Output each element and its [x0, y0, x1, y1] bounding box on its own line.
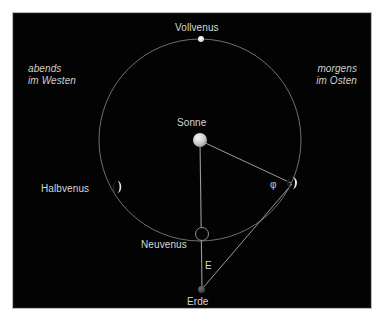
- sun-venus-line: [201, 141, 291, 183]
- morning-east-annotation: morgens im Osten: [316, 63, 357, 87]
- half-venus-label: Halbvenus: [41, 183, 89, 195]
- phase-angle-label: φ: [270, 179, 277, 191]
- orbit-and-rays-layer: [0, 0, 389, 324]
- earth-label: Erde: [187, 296, 209, 308]
- half-venus-marker: [111, 180, 123, 194]
- elongation-angle-label: E: [205, 260, 212, 272]
- morning-line-2: im Osten: [316, 75, 357, 87]
- new-venus-marker: [195, 227, 209, 241]
- evening-west-annotation: abends im Westen: [28, 63, 76, 87]
- morning-line-1: morgens: [316, 63, 357, 75]
- earth-venus-line: [202, 184, 292, 289]
- sun-label: Sonne: [177, 117, 206, 129]
- earth-marker: [198, 286, 205, 293]
- full-venus-label: Vollvenus: [175, 22, 219, 34]
- diagram-stage: abends im Westen morgens im Osten Vollve…: [0, 0, 389, 324]
- new-venus-label: Neuvenus: [141, 239, 187, 251]
- elongation-venus-marker: [285, 176, 298, 190]
- diagram-scene: abends im Westen morgens im Osten Vollve…: [0, 0, 389, 324]
- sun-marker: [193, 133, 207, 147]
- sun-earth-line: [200, 141, 202, 289]
- evening-line-2: im Westen: [28, 75, 76, 87]
- full-venus-marker: [198, 36, 204, 42]
- evening-line-1: abends: [28, 63, 76, 75]
